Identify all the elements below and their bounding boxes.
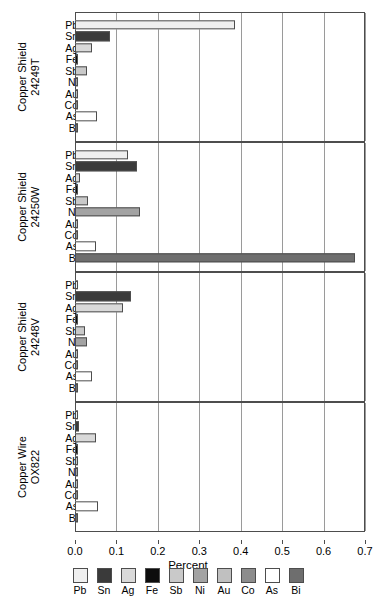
bar-row: Ni: [0, 76, 376, 87]
bar-sn: [75, 422, 79, 431]
legend-items: PbSnAgFeSbNiAuCoAsBi: [70, 568, 306, 597]
bar-as: [75, 372, 92, 381]
x-tick: [158, 540, 159, 544]
category-label-ni: Ni: [38, 467, 78, 478]
bar-row: Bi: [0, 252, 376, 263]
bar-pb: [75, 280, 78, 289]
category-label-as: As: [38, 501, 78, 512]
legend-label-ag: Ag: [122, 584, 135, 597]
bar-row: Co: [0, 359, 376, 370]
bar-row: Ni: [0, 466, 376, 477]
legend-swatch-sb: [169, 568, 184, 583]
legend-label-ni: Ni: [195, 584, 205, 597]
x-tick-label: 0.3: [192, 545, 207, 557]
x-tick: [116, 540, 117, 544]
category-label-ag: Ag: [38, 43, 78, 54]
bar-row: Pb: [0, 409, 376, 420]
panel-4: Copper Wire OX822PbSnAgFeSbNiAuCoAsBi: [0, 402, 376, 532]
category-label-pb: Pb: [38, 410, 78, 421]
bar-row: Ag: [0, 302, 376, 313]
category-label-pb: Pb: [38, 150, 78, 161]
bar-ni: [75, 207, 140, 216]
bar-row: As: [0, 241, 376, 252]
legend-item-sb[interactable]: Sb: [166, 568, 186, 597]
bar-row: Au: [0, 348, 376, 359]
bar-sb: [75, 196, 88, 205]
panel-stack: Copper Shield 24249TPbSnAgFeSbNiAuCoAsBi…: [0, 0, 376, 540]
legend-swatch-fe: [145, 568, 160, 583]
category-label-sn: Sn: [38, 421, 78, 432]
bar-row: Sb: [0, 325, 376, 336]
legend-item-sn[interactable]: Sn: [94, 568, 114, 597]
legend-item-co[interactable]: Co: [238, 568, 258, 597]
bar-pb: [75, 410, 78, 419]
legend-swatch-sn: [97, 568, 112, 583]
bar-sn: [75, 32, 110, 41]
legend-item-ni[interactable]: Ni: [190, 568, 210, 597]
legend-label-pb: Pb: [74, 584, 87, 597]
bar-as: [75, 502, 98, 511]
bar-row: Sb: [0, 65, 376, 76]
bar-row: Pb: [0, 149, 376, 160]
bar-rows: PbSnAgFeSbNiAuCoAsBi: [0, 272, 376, 402]
legend-item-au[interactable]: Au: [214, 568, 234, 597]
legend-item-pb[interactable]: Pb: [70, 568, 90, 597]
legend-item-as[interactable]: As: [262, 568, 282, 597]
bar-ag: [75, 303, 123, 312]
x-tick-label: 0.7: [357, 545, 372, 557]
category-label-as: As: [38, 371, 78, 382]
legend-item-bi[interactable]: Bi: [286, 568, 306, 597]
bar-fe: [75, 315, 78, 324]
category-label-ag: Ag: [38, 303, 78, 314]
category-label-ni: Ni: [38, 207, 78, 218]
x-tick-label: 0.1: [109, 545, 124, 557]
bar-row: Sb: [0, 455, 376, 466]
bar-row: Au: [0, 88, 376, 99]
legend-label-sn: Sn: [98, 584, 111, 597]
bar-bi: [75, 253, 355, 262]
bar-row: Ag: [0, 42, 376, 53]
bar-row: Ag: [0, 432, 376, 443]
bar-row: Au: [0, 478, 376, 489]
x-tick-label: 0.5: [274, 545, 289, 557]
bar-row: As: [0, 111, 376, 122]
legend-label-fe: Fe: [146, 584, 158, 597]
bar-row: Bi: [0, 512, 376, 523]
bar-row: Pb: [0, 19, 376, 30]
bar-row: Fe: [0, 54, 376, 65]
category-label-co: Co: [38, 230, 78, 241]
bar-row: Fe: [0, 314, 376, 325]
category-label-co: Co: [38, 490, 78, 501]
bar-row: Sn: [0, 31, 376, 42]
category-label-au: Au: [38, 88, 78, 99]
category-label-bi: Bi: [38, 513, 78, 524]
bar-rows: PbSnAgFeSbNiAuCoAsBi: [0, 142, 376, 272]
category-label-fe: Fe: [38, 184, 78, 195]
legend-label-as: As: [266, 584, 278, 597]
x-tick-label: 0.4: [233, 545, 248, 557]
bar-ni: [75, 337, 87, 346]
category-label-au: Au: [38, 348, 78, 359]
bar-row: Pb: [0, 279, 376, 290]
legend-item-fe[interactable]: Fe: [142, 568, 162, 597]
bar-ni: [75, 467, 78, 476]
legend-item-ag[interactable]: Ag: [118, 568, 138, 597]
category-label-pb: Pb: [38, 20, 78, 31]
panel-2: Copper Shield 24250WPbSnAgFeSbNiAuCoAsBi: [0, 142, 376, 272]
bar-row: Sb: [0, 195, 376, 206]
x-tick: [241, 540, 242, 544]
bar-row: Ag: [0, 172, 376, 183]
bar-co: [75, 490, 78, 499]
category-label-au: Au: [38, 218, 78, 229]
category-label-fe: Fe: [38, 444, 78, 455]
category-label-sn: Sn: [38, 161, 78, 172]
bar-rows: PbSnAgFeSbNiAuCoAsBi: [0, 12, 376, 142]
bar-sb: [75, 456, 78, 465]
x-tick-label: 0.0: [67, 545, 82, 557]
category-label-bi: Bi: [38, 253, 78, 264]
category-label-co: Co: [38, 100, 78, 111]
bar-row: Sn: [0, 161, 376, 172]
bar-row: Fe: [0, 444, 376, 455]
category-label-sn: Sn: [38, 291, 78, 302]
bar-row: Co: [0, 99, 376, 110]
